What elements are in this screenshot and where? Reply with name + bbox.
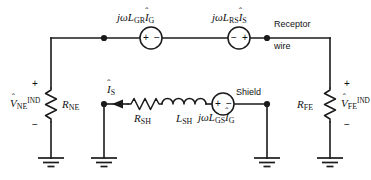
resistor-rne-symbol-text: R — [62, 98, 69, 110]
source-jwlrs-is-label-hat: ˆ — [239, 8, 242, 17]
source-jwlgr-ig-minus-sign: − — [154, 33, 160, 43]
circuit-schematic-svg — [0, 0, 371, 180]
voltage-vne-sup: IND — [27, 97, 40, 105]
resistor-rne-label: RNE — [62, 99, 79, 112]
resistor-rfe-label: RFE — [297, 99, 313, 112]
source-jwlrs-is-label-var-wrap: ˆI — [239, 12, 243, 23]
voltage-vne-minus-sign: − — [32, 120, 38, 130]
source-jwlgs-ig-plus-sign: + — [215, 99, 221, 109]
source-jwlgs-ig-label-hat: ˆ — [225, 108, 228, 117]
resistor-rsh-symbol-text: R — [134, 112, 141, 124]
source-jwlrs-is-label-sub2: S — [242, 16, 246, 25]
current-is-hat: ˆ — [107, 80, 110, 89]
source-jwlrs-is-label-sub1: RS — [229, 16, 239, 25]
source-jwlrs-is-plus-sign: + — [242, 33, 248, 43]
resistor-rsh-label: RSH — [134, 113, 151, 126]
source-jwlgr-ig-label-hat: ˆ — [145, 8, 148, 17]
resistor-rne-symbol — [46, 88, 57, 122]
voltage-vfe-hat: ˆ — [343, 94, 346, 103]
ground-ne — [38, 158, 64, 167]
voltage-vfe-symbol-wrap: ˆV — [341, 98, 348, 109]
voltage-vfe-sup: IND — [357, 97, 370, 105]
receptor-wire-label-line2: wire — [274, 42, 291, 51]
voltage-vne-symbol-wrap: ˆV — [10, 98, 17, 109]
source-jwlgr-ig-label-prefix: jωL — [117, 11, 134, 23]
ground-fe — [317, 158, 343, 167]
current-is-arrowhead — [112, 100, 123, 109]
source-jwlgs-ig-label-sub2: G — [229, 116, 235, 125]
ground-shield-left — [91, 158, 117, 167]
node-dot-shield-left — [101, 101, 107, 107]
voltage-vne-label: ˆVNEIND — [10, 98, 40, 111]
source-jwlgr-ig-label-sub1: GR — [134, 16, 145, 25]
shield-label: Shield — [236, 88, 261, 97]
inductor-lsh-sub: SH — [182, 117, 192, 126]
voltage-vne-sub: NE — [17, 102, 28, 111]
resistor-rfe-sub: FE — [304, 103, 313, 112]
node-dot-shield-right — [264, 101, 270, 107]
resistor-rsh-symbol — [128, 99, 162, 110]
resistor-rfe-symbol-text: R — [297, 98, 304, 110]
voltage-vne-hat: ˆ — [12, 94, 15, 103]
node-dot-receptor-right — [264, 35, 270, 41]
resistor-rfe-group — [325, 88, 336, 158]
resistor-rsh-sub: SH — [141, 117, 151, 126]
shield-loop-group — [104, 99, 267, 159]
resistor-rne-group — [46, 88, 57, 158]
current-is-symbol-wrap: ˆI — [107, 84, 111, 95]
source-jwlgs-ig-label-prefix: jωL — [198, 111, 215, 123]
source-jwlrs-is-minus-sign: − — [231, 33, 237, 43]
resistor-rne-sub: NE — [69, 103, 80, 112]
source-jwlgs-ig-label-sub1: GS — [215, 116, 225, 125]
source-jwlgr-ig-plus-sign: + — [143, 33, 149, 43]
inductor-lsh-symbol — [162, 99, 206, 104]
source-jwlrs-is-label: jωLRSˆIS — [212, 12, 247, 25]
source-jwlgr-ig-label-sub2: G — [149, 16, 155, 25]
inductor-lsh-label: LSH — [176, 113, 192, 126]
circuit-diagram-canvas: + − − + + − jωLGRˆIG jωLRSˆIS jωLGSˆIG R… — [0, 0, 371, 180]
voltage-vfe-minus-sign: − — [344, 120, 350, 130]
node-dot-receptor-left — [101, 35, 107, 41]
source-jwlgr-ig-label-var-wrap: ˆI — [145, 12, 149, 23]
current-is-sub: S — [111, 88, 115, 97]
ground-shield-right — [254, 158, 280, 167]
resistor-rfe-symbol — [325, 88, 336, 122]
voltage-vfe-sub: FE — [348, 102, 357, 111]
receptor-wire-label-line1: Receptor — [274, 20, 311, 29]
voltage-vfe-label: ˆVFEIND — [341, 98, 370, 111]
voltage-vfe-plus-sign: + — [344, 79, 350, 89]
current-is-label: ˆIS — [107, 84, 115, 97]
source-jwlgs-ig-label-var-wrap: ˆI — [225, 112, 229, 123]
source-jwlgs-ig-label: jωLGSˆIG — [198, 112, 234, 125]
voltage-vne-plus-sign: + — [32, 79, 38, 89]
source-jwlrs-is-label-prefix: jωL — [212, 11, 229, 23]
source-jwlgr-ig-label: jωLGRˆIG — [117, 12, 154, 25]
